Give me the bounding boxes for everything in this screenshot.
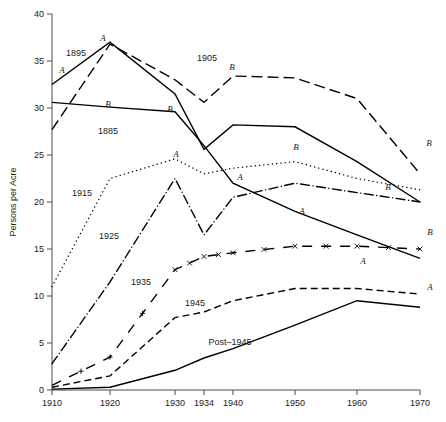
series-marker-1935 bbox=[355, 244, 360, 249]
series-annotation-1925: 1925 bbox=[99, 231, 119, 241]
cohort-marker-b: B bbox=[385, 182, 391, 192]
series-line-1925 bbox=[52, 179, 420, 364]
axes: 0510152025303540191019201930193419401950… bbox=[8, 9, 430, 408]
cohort-marker-b: B bbox=[426, 138, 432, 148]
series-marker-1935 bbox=[293, 244, 298, 249]
cohort-marker-b: B bbox=[427, 227, 433, 237]
x-tick-label: 1970 bbox=[410, 398, 430, 408]
x-tick-label: 1920 bbox=[100, 398, 120, 408]
x-tick-label: 1930 bbox=[165, 398, 185, 408]
series-annotation-1905: 1905 bbox=[197, 53, 217, 63]
series-line-1915 bbox=[52, 159, 420, 287]
series-line-1935 bbox=[52, 246, 420, 385]
cohort-marker-a: A bbox=[99, 33, 106, 43]
series-annotation-1895: 1895 bbox=[66, 48, 86, 58]
y-tick-label: 5 bbox=[39, 338, 44, 348]
series-annotation-1945: 1945 bbox=[185, 298, 205, 308]
cohort-marker-a: A bbox=[58, 65, 65, 75]
series-annotation-1935: 1935 bbox=[131, 277, 151, 287]
x-tick-label: 1940 bbox=[223, 398, 243, 408]
x-tick-label: 1934 bbox=[194, 398, 214, 408]
y-tick-label: 0 bbox=[39, 385, 44, 395]
series-marker-1935 bbox=[107, 355, 112, 360]
cohort-marker-a: A bbox=[236, 172, 243, 182]
series-marker-1935 bbox=[78, 369, 83, 374]
axis-lines bbox=[52, 14, 420, 390]
cohort-marker-a: A bbox=[298, 206, 305, 216]
series-line-1895 bbox=[52, 42, 420, 202]
cohort-marker-a: A bbox=[426, 282, 433, 292]
cohort-marker-a: A bbox=[359, 256, 366, 266]
chart-container: 0510152025303540191019201930193419401950… bbox=[0, 0, 446, 422]
cohort-marker-b: B bbox=[105, 99, 111, 109]
y-tick-label: 40 bbox=[34, 9, 44, 19]
x-tick-label: 1960 bbox=[347, 398, 367, 408]
y-tick-label: 10 bbox=[34, 291, 44, 301]
series-annotation-post-1945: Post–1945 bbox=[208, 337, 251, 347]
y-axis-title: Persons per Acre bbox=[8, 167, 18, 236]
cohort-marker-b: B bbox=[293, 142, 299, 152]
y-tick-label: 25 bbox=[34, 150, 44, 160]
cohort-marker-a: A bbox=[172, 149, 179, 159]
series-annotation-1885: 1885 bbox=[98, 126, 118, 136]
series-labels-layer: 1895188519051915192519351945Post–1945AAB… bbox=[58, 33, 433, 347]
y-tick-label: 30 bbox=[34, 103, 44, 113]
cohort-marker-b: B bbox=[229, 62, 235, 72]
y-tick-label: 20 bbox=[34, 197, 44, 207]
series-marker-1935 bbox=[202, 254, 207, 259]
x-tick-label: 1950 bbox=[285, 398, 305, 408]
y-tick-label: 15 bbox=[34, 244, 44, 254]
series-annotation-1915: 1915 bbox=[72, 188, 92, 198]
cohort-marker-b: B bbox=[167, 104, 173, 114]
x-tick-label: 1910 bbox=[42, 398, 62, 408]
y-tick-label: 35 bbox=[34, 56, 44, 66]
line-chart: 0510152025303540191019201930193419401950… bbox=[0, 0, 446, 422]
